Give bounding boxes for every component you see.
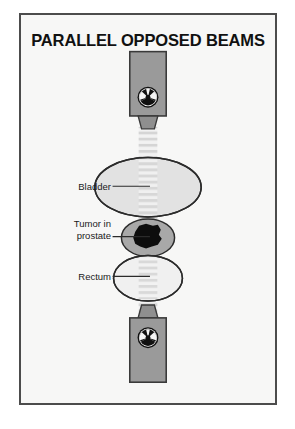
collimator-top [138, 116, 158, 129]
rectum-organ [114, 256, 183, 302]
label-rectum: Rectum [39, 271, 111, 283]
collimator-bottom [138, 305, 158, 318]
label-tumor: Tumor in prostate [27, 218, 111, 241]
radiation-trefoil-icon [138, 327, 159, 348]
diagram-canvas [21, 15, 275, 403]
label-tumor-line1: Tumor in [27, 218, 111, 230]
label-tumor-line2: prostate [27, 230, 111, 242]
radiation-source-head-bottom [130, 318, 166, 382]
radiation-trefoil-icon [138, 87, 159, 108]
radiation-source-head-top [130, 52, 166, 116]
figure-root: PARALLEL OPPOSED BEAMS [0, 0, 295, 429]
label-bladder: Bladder [39, 181, 111, 193]
figure-frame: PARALLEL OPPOSED BEAMS [19, 13, 277, 405]
